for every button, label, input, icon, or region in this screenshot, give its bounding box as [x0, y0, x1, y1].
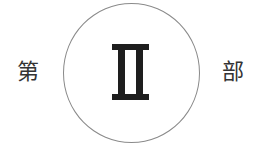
roman-numeral-two — [112, 44, 149, 100]
part-prefix: 第 — [17, 60, 39, 84]
numeral-stem-right — [136, 48, 143, 96]
part-suffix: 部 — [222, 60, 244, 84]
numeral-stem-left — [118, 48, 125, 96]
numeral-serif-bottom — [112, 94, 149, 100]
